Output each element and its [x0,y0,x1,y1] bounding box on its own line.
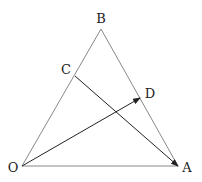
geometry-diagram: B C D O A [0,0,202,182]
point-label-c: C [61,63,71,76]
point-label-b: B [96,12,106,25]
segment-ob [22,29,101,166]
diagram-svg [0,0,202,182]
point-label-o: O [8,161,19,174]
vector-od [22,98,140,166]
point-label-a: A [182,161,191,174]
vector-ca [75,76,178,166]
point-label-d: D [145,87,155,100]
segment-ba [101,29,178,166]
